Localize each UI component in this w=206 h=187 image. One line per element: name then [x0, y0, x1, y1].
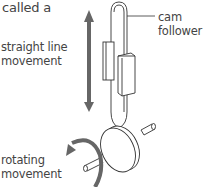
- cam-follower-icon: [103, 2, 135, 128]
- rotating-arrowhead-icon: [66, 144, 76, 156]
- cam-disc-icon: [84, 120, 156, 177]
- cam-mechanism-illustration: [0, 0, 206, 187]
- straight-line-arrow-icon: [84, 10, 94, 112]
